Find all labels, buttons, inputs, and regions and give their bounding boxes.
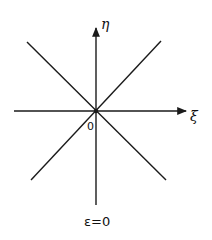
phase-diagram (0, 0, 212, 240)
origin-point (94, 109, 98, 113)
eta-axis-label: η (101, 17, 109, 31)
epsilon-caption: ε=0 (84, 215, 110, 228)
xi-axis-label: ξ (190, 109, 198, 123)
origin-label: 0 (87, 121, 94, 132)
